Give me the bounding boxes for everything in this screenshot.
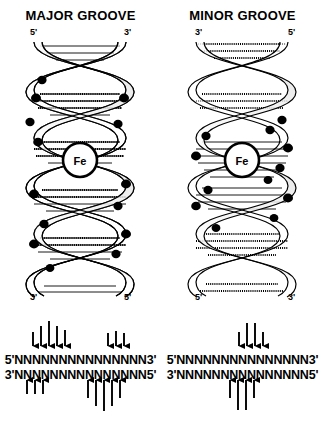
helix-label-top-left-major: 5' bbox=[30, 27, 37, 37]
sequence-top-major: 5'NNNNNNNNNNNNNNN3' bbox=[0, 353, 161, 367]
sequence-bottom-major: 3'NNNNNNNNNNNNNNN5' bbox=[0, 368, 161, 382]
sequence-diagram-minor: 5'NNNNNNNNNNNNNNN3' 3'NNNNNNNNNNNNNNN5' bbox=[162, 310, 323, 425]
fe-center-minor: Fe bbox=[225, 143, 259, 177]
sequence-bottom-minor: 3'NNNNNNNNNNNNNNN5' bbox=[162, 368, 323, 382]
panel-major-groove: MAJOR GROOVE 5' 3' 3' 5' bbox=[0, 0, 161, 425]
sequence-top-minor: 5'NNNNNNNNNNNNNNN3' bbox=[162, 353, 323, 367]
helix-label-top-left-minor: 3' bbox=[195, 27, 202, 37]
dna-helix-minor: Fe bbox=[162, 38, 323, 300]
helix-label-top-right-minor: 5' bbox=[288, 27, 295, 37]
panel-title-major: MAJOR GROOVE bbox=[0, 8, 161, 23]
fe-center-major: Fe bbox=[63, 143, 97, 177]
svg-text:Fe: Fe bbox=[74, 155, 87, 167]
sequence-diagram-major: 5'NNNNNNNNNNNNNNN3' 3'NNNNNNNNNNNNNNN5' bbox=[0, 310, 161, 425]
helix-label-top-right-major: 3' bbox=[124, 27, 131, 37]
panel-minor-groove: MINOR GROOVE 3' 5' 5' 3' bbox=[162, 0, 323, 425]
dna-helix-major: Fe bbox=[0, 38, 161, 300]
panel-title-minor: MINOR GROOVE bbox=[162, 8, 323, 23]
svg-text:Fe: Fe bbox=[236, 155, 249, 167]
